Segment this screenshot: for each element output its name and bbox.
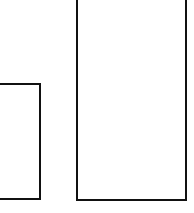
left-rectangle	[0, 83, 41, 200]
right-rectangle	[76, 0, 187, 201]
diagram-canvas	[0, 0, 194, 213]
